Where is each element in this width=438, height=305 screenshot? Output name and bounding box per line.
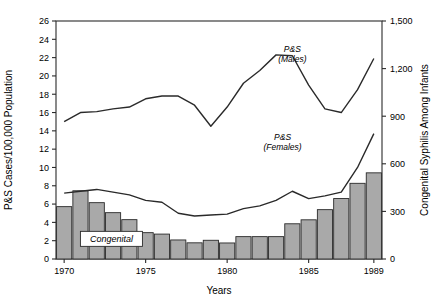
y-axis-tick-label: 8 [44,181,49,191]
y-axis-tick-label: 18 [39,90,49,100]
series-annotation-line2: (Males) [278,54,307,64]
series-annotation-line2: (Females) [263,142,301,152]
bar-congenital [89,203,104,259]
plot-frame [56,21,382,259]
bar-congenital [220,243,235,259]
y-axis-tick-label: 0 [44,254,49,264]
series-annotation-line1: P&S [284,44,301,54]
bar-congenital [203,240,218,259]
x-axis-tick-label: 1975 [136,266,156,276]
y-axis-tick-label: 2 [44,236,49,246]
y2-axis-tick-label: 0 [390,254,395,264]
bar-congenital [334,199,349,259]
bar-congenital [73,191,88,259]
bar-congenital [366,173,381,259]
congenital-label: Congenital [90,234,134,244]
y-axis-tick-label: 14 [39,126,49,136]
chart-figure: 0246810121416182022242603006009001,2001,… [0,0,438,305]
bar-congenital [57,207,72,259]
x-axis-tick-label: 1989 [364,266,384,276]
bar-congenital [171,240,186,259]
x-axis-tick-label: 1985 [299,266,319,276]
y2-axis-title: Congenital Syphilis Among Infants [419,64,430,216]
bar-congenital [252,237,267,259]
line-p-s-males [64,55,374,126]
y-axis-tick-label: 26 [39,16,49,26]
x-axis-tick-label: 1980 [217,266,237,276]
x-axis-tick-label: 1970 [54,266,74,276]
bar-congenital [236,237,251,259]
y2-axis-tick-label: 1,500 [390,16,413,26]
y2-axis-tick-label: 1,200 [390,64,413,74]
y-axis-tick-label: 10 [39,163,49,173]
y-axis-tick-label: 20 [39,71,49,81]
y-axis-tick-label: 16 [39,108,49,118]
y2-axis-tick-label: 900 [390,112,405,122]
y2-axis-tick-label: 300 [390,207,405,217]
bar-congenital [317,210,332,259]
x-axis-title: Years [206,285,231,296]
y-axis-tick-label: 6 [44,199,49,209]
bar-congenital [154,234,169,259]
y-axis-title: P&S Cases/100,000 Population [3,70,14,210]
bar-congenital [187,243,202,259]
bar-congenital [350,183,365,259]
y-axis-tick-label: 22 [39,53,49,63]
syphilis-trends-chart: 0246810121416182022242603006009001,2001,… [0,0,438,305]
bar-congenital [268,237,283,259]
y-axis-tick-label: 4 [44,218,49,228]
line-p-s-females [64,134,374,216]
series-annotation-line1: P&S [274,132,291,142]
bar-congenital [301,220,316,259]
y-axis-tick-label: 12 [39,144,49,154]
y2-axis-tick-label: 600 [390,159,405,169]
bar-congenital [285,224,300,259]
y-axis-tick-label: 24 [39,35,49,45]
